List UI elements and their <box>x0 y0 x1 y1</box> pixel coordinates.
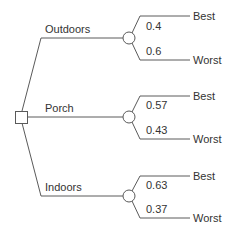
chance-node-porch <box>123 111 135 123</box>
probability-indoors-worst: 0.37 <box>146 203 167 215</box>
decision-tree-diagram: Outdoors 0.4 0.6 Best Worst Porch 0.57 0… <box>0 0 232 234</box>
outcome-indoors-worst: Worst <box>193 212 222 224</box>
branch-label-indoors: Indoors <box>45 181 82 193</box>
branch-outdoors: Outdoors 0.4 0.6 Best Worst <box>22 10 222 111</box>
branch-label-porch: Porch <box>45 102 74 114</box>
branch-porch: Porch 0.57 0.43 Best Worst <box>28 90 222 145</box>
outcome-porch-best: Best <box>193 90 215 102</box>
chance-node-indoors <box>123 190 135 202</box>
probability-outdoors-worst: 0.6 <box>146 45 161 57</box>
outcome-outdoors-best: Best <box>193 10 215 22</box>
outcome-porch-worst: Worst <box>193 133 222 145</box>
probability-outdoors-best: 0.4 <box>146 20 161 32</box>
chance-node-outdoors <box>123 32 135 44</box>
probability-porch-worst: 0.43 <box>146 124 167 136</box>
probability-indoors-best: 0.63 <box>146 179 167 191</box>
branch-label-outdoors: Outdoors <box>45 23 91 35</box>
probability-porch-best: 0.57 <box>146 99 167 111</box>
decision-node <box>16 112 28 124</box>
outcome-outdoors-worst: Worst <box>193 54 222 66</box>
branch-indoors: Indoors 0.63 0.37 Best Worst <box>22 123 222 224</box>
outcome-indoors-best: Best <box>193 170 215 182</box>
